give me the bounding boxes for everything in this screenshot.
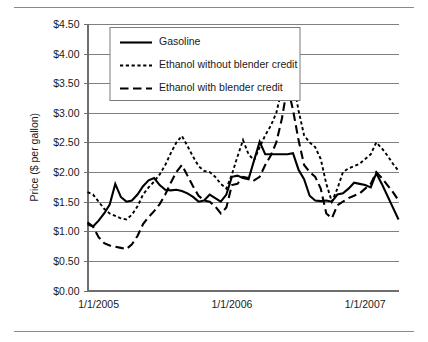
y-tick-label: $4.50 (53, 18, 79, 30)
y-tick-label: $3.50 (53, 77, 79, 89)
y-axis-tick-marks (84, 25, 88, 292)
x-tick-label: 1/1/2007 (345, 298, 386, 310)
legend-label: Gasoline (159, 35, 201, 47)
legend-label: Ethanol with blender credit (159, 81, 283, 93)
y-tick-label: $3.00 (53, 107, 79, 119)
y-tick-label: $1.50 (53, 196, 79, 208)
x-axis-tick-labels: 1/1/20051/1/20061/1/2007 (78, 298, 386, 310)
x-tick-label: 1/1/2005 (78, 298, 119, 310)
y-tick-label: $0.50 (53, 255, 79, 267)
y-tick-label: $4.00 (53, 48, 79, 60)
y-axis-tick-labels: $0.00$0.50$1.00$1.50$2.00$2.50$3.00$3.50… (53, 18, 79, 297)
legend-label: Ethanol without blender credit (159, 58, 297, 70)
y-tick-label: $2.50 (53, 136, 79, 148)
chart-legend: GasolineEthanol without blender creditEt… (110, 28, 300, 101)
y-tick-label: $1.00 (53, 225, 79, 237)
y-axis-title: Price ($ per gallon) (28, 113, 40, 202)
series-line-solid (88, 142, 399, 227)
y-tick-label: $2.00 (53, 166, 79, 178)
price-line-chart: $0.00$0.50$1.00$1.50$2.00$2.50$3.00$3.50… (0, 0, 428, 342)
chart-figure: $0.00$0.50$1.00$1.50$2.00$2.50$3.00$3.50… (0, 0, 428, 342)
x-tick-label: 1/1/2006 (211, 298, 252, 310)
y-tick-label: $0.00 (53, 285, 79, 297)
